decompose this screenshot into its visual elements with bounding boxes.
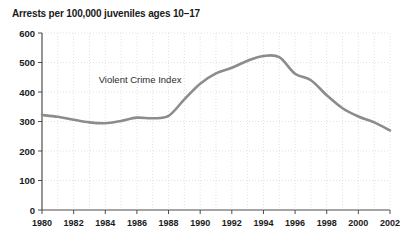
violent-crime-index-chart: Arrests per 100,000 juveniles ages 10–17…	[0, 0, 400, 241]
x-tick-label: 1994	[253, 218, 273, 228]
x-tick-label: 1992	[222, 218, 242, 228]
x-tick-label: 1996	[285, 218, 305, 228]
chart-plot-area: 0100200300400500600 19801982198419861988…	[0, 0, 400, 241]
y-tick-label: 500	[19, 57, 35, 68]
y-tick-label: 600	[19, 28, 35, 39]
x-tick-label: 1980	[32, 218, 52, 228]
x-tick-label: 1998	[317, 218, 337, 228]
y-tick-label: 400	[19, 87, 35, 98]
y-tick-label: 0	[30, 205, 35, 216]
x-tick-label: 1990	[190, 218, 210, 228]
y-tick-label: 200	[19, 146, 35, 157]
series-annotation-label: Violent Crime Index	[99, 74, 182, 85]
x-tick-label: 1984	[95, 218, 115, 228]
x-tick-label: 1988	[159, 218, 179, 228]
x-axis-tick-labels: 1980198219841986198819901992199419961998…	[32, 218, 400, 228]
y-tick-label: 300	[19, 116, 35, 127]
x-tick-label: 2002	[380, 218, 400, 228]
x-axis-tick-marks	[42, 210, 390, 214]
horizontal-gridlines	[42, 33, 390, 181]
x-tick-label: 1986	[127, 218, 147, 228]
x-tick-label: 1982	[64, 218, 84, 228]
y-tick-label: 100	[19, 175, 35, 186]
x-tick-label: 2000	[348, 218, 368, 228]
vertical-gridlines	[58, 33, 390, 210]
chart-annotations: Violent Crime Index	[99, 74, 182, 85]
y-axis-tick-labels: 0100200300400500600	[19, 28, 35, 216]
